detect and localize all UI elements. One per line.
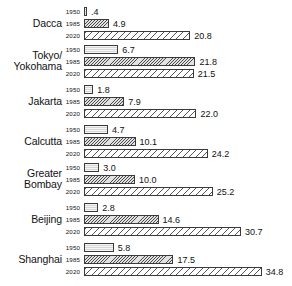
bar-value-label: 4.7 <box>112 124 125 136</box>
year-label: 1950 <box>44 242 80 254</box>
bar-row: 202030.7 <box>0 226 292 238</box>
bar-row: 19503.0 <box>0 162 292 174</box>
bar-1985 <box>84 57 195 66</box>
bar-1985 <box>84 215 159 224</box>
year-label: 1950 <box>44 44 80 56</box>
year-label: 2020 <box>44 266 80 278</box>
bar-2020 <box>84 267 262 276</box>
bar-1985 <box>84 137 136 146</box>
bar-row: 202034.8 <box>0 266 292 278</box>
bar-1950 <box>84 45 118 54</box>
bar-value-label: 17.5 <box>177 254 195 266</box>
year-label: 1985 <box>44 136 80 148</box>
bar-value-label: 6.7 <box>122 44 135 56</box>
year-label: 2020 <box>44 186 80 198</box>
year-label: 2020 <box>44 108 80 120</box>
year-label: 1985 <box>44 96 80 108</box>
bar-value-label: 21.5 <box>198 68 216 80</box>
bar-value-label: 22.0 <box>200 108 218 120</box>
bar-row: 198517.5 <box>0 254 292 266</box>
bar-row: 19505.8 <box>0 242 292 254</box>
bar-row: 202022.0 <box>0 108 292 120</box>
bar-1950 <box>84 85 93 94</box>
year-label: 1950 <box>44 6 80 18</box>
bar-2020 <box>84 31 190 40</box>
bar-row: 202021.5 <box>0 68 292 80</box>
year-label: 1985 <box>44 174 80 186</box>
year-label: 2020 <box>44 30 80 42</box>
year-label: 1950 <box>44 162 80 174</box>
bar-value-label: 7.9 <box>128 96 141 108</box>
bar-row: 19504.7 <box>0 124 292 136</box>
bar-row: 19501.8 <box>0 84 292 96</box>
population-bar-chart: Dacca1950.419854.9202020.8Tokyo/Yokohama… <box>0 0 292 286</box>
bar-row: 198510.1 <box>0 136 292 148</box>
bar-row: 1950.4 <box>0 6 292 18</box>
bar-1985 <box>84 19 109 28</box>
bar-2020 <box>84 69 194 78</box>
bar-2020 <box>84 227 241 236</box>
bar-2020 <box>84 187 213 196</box>
year-label: 1985 <box>44 18 80 30</box>
bar-row: 19506.7 <box>0 44 292 56</box>
bar-row: 19857.9 <box>0 96 292 108</box>
year-label: 1985 <box>44 254 80 266</box>
bar-row: 198521.8 <box>0 56 292 68</box>
year-label: 2020 <box>44 68 80 80</box>
bar-row: 202025.2 <box>0 186 292 198</box>
bar-value-label: 3.0 <box>103 162 116 174</box>
year-label: 1985 <box>44 214 80 226</box>
year-label: 2020 <box>44 226 80 238</box>
bar-value-label: 5.8 <box>118 242 131 254</box>
bar-value-label: 34.8 <box>266 266 284 278</box>
bar-value-label: 21.8 <box>199 56 217 68</box>
bar-value-label: 24.2 <box>212 148 230 160</box>
year-label: 1950 <box>44 124 80 136</box>
bar-1950 <box>84 7 87 16</box>
bar-row: 19854.9 <box>0 18 292 30</box>
year-label: 1950 <box>44 202 80 214</box>
bar-value-label: 20.8 <box>194 30 212 42</box>
bar-value-label: 4.9 <box>113 18 126 30</box>
bar-value-label: 30.7 <box>245 226 263 238</box>
bar-1950 <box>84 125 108 134</box>
bar-1950 <box>84 163 99 172</box>
bar-value-label: .4 <box>91 6 99 18</box>
bar-row: 202024.2 <box>0 148 292 160</box>
bar-row: 202020.8 <box>0 30 292 42</box>
bar-row: 19502.8 <box>0 202 292 214</box>
year-label: 2020 <box>44 148 80 160</box>
bar-value-label: 1.8 <box>97 84 110 96</box>
bar-1950 <box>84 203 98 212</box>
bar-2020 <box>84 149 208 158</box>
bar-row: 198510.0 <box>0 174 292 186</box>
year-label: 1950 <box>44 84 80 96</box>
bar-1985 <box>84 255 173 264</box>
year-label: 1985 <box>44 56 80 68</box>
bar-value-label: 10.0 <box>139 174 157 186</box>
bar-value-label: 2.8 <box>102 202 115 214</box>
bar-row: 198514.6 <box>0 214 292 226</box>
bar-value-label: 10.1 <box>140 136 158 148</box>
bar-value-label: 25.2 <box>217 186 235 198</box>
bar-1985 <box>84 97 124 106</box>
bar-value-label: 14.6 <box>163 214 181 226</box>
bar-1985 <box>84 175 135 184</box>
bar-1950 <box>84 243 114 252</box>
bar-2020 <box>84 109 196 118</box>
